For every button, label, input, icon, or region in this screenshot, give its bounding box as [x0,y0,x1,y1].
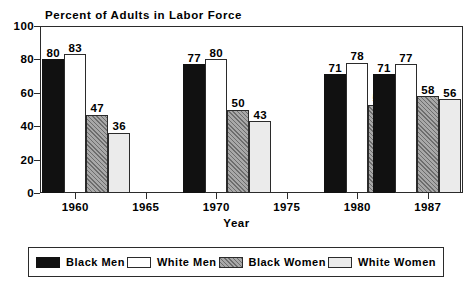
bar-black-men-1980: 71 [324,74,346,193]
legend-item-black-women[interactable]: Black Women [219,256,326,268]
x-tick-label: 1975 [273,201,300,213]
legend-item-white-women[interactable]: White Women [328,256,436,268]
legend-item-black-men[interactable]: Black Men [36,256,125,268]
x-tick-label: 1960 [62,201,89,213]
bar-value-label: 50 [232,98,245,110]
bar-black-women-1970: 50 [227,110,249,194]
bar-white-women-1960: 36 [108,133,130,193]
legend-label: White Women [358,256,436,268]
bar-white-men-1970: 80 [205,59,227,193]
bar-value-label: 56 [443,88,456,100]
legend-label: Black Men [66,256,125,268]
x-tick-label: 1970 [203,201,230,213]
y-tick-label: 100 [14,20,34,32]
x-axis-title: Year [0,217,473,229]
legend-label: White Men [157,256,217,268]
legend-swatch-white-men [127,257,151,268]
bars-layer: 80834736778050437178535171775856 [40,26,463,193]
x-tick-mark [146,193,147,199]
bar-white-men-1960: 83 [64,54,86,193]
bar-chart: Percent of Adults in Labor Force 0204060… [0,0,473,289]
x-tick-mark [216,193,217,199]
x-tick-mark [75,193,76,199]
x-tick-label: 1965 [132,201,159,213]
y-tick-label: 20 [20,154,34,166]
bar-value-label: 43 [254,110,267,122]
bar-value-label: 78 [351,51,364,63]
y-tick-label: 60 [20,87,34,99]
bar-value-label: 83 [69,43,82,55]
y-tick-label: 40 [20,120,34,132]
y-tick-mark [34,193,40,194]
bar-white-women-1970: 43 [249,121,271,193]
x-tick-mark [287,193,288,199]
y-tick-label: 80 [20,53,34,65]
y-axis: 020406080100 [0,26,34,193]
bar-black-men-1987: 71 [373,74,395,193]
legend-swatch-white-women [328,257,352,268]
legend-swatch-black-women [219,257,243,268]
x-tick-label: 1987 [414,201,441,213]
legend-swatch-black-men [36,257,60,268]
legend-item-white-men[interactable]: White Men [127,256,217,268]
bar-value-label: 71 [377,63,390,75]
bar-white-men-1980: 78 [346,63,368,193]
chart-title: Percent of Adults in Labor Force [45,9,242,21]
bar-value-label: 80 [47,48,60,60]
x-tick-mark [428,193,429,199]
bar-black-women-1960: 47 [86,115,108,193]
legend: Black MenWhite MenBlack WomenWhite Women [28,247,444,277]
bar-value-label: 80 [210,48,223,60]
bar-white-men-1987: 77 [395,64,417,193]
bar-value-label: 77 [188,53,201,65]
bar-value-label: 71 [329,63,342,75]
bar-value-label: 47 [91,103,104,115]
legend-label: Black Women [249,256,326,268]
bar-black-men-1970: 77 [183,64,205,193]
bar-value-label: 36 [113,121,126,133]
bar-black-women-1987: 58 [417,96,439,193]
x-tick-mark [357,193,358,199]
bar-value-label: 58 [421,85,434,97]
y-tick-label: 0 [27,187,34,199]
bar-value-label: 77 [399,53,412,65]
x-tick-label: 1980 [344,201,371,213]
bar-white-women-1987: 56 [439,99,461,193]
bar-black-men-1960: 80 [42,59,64,193]
